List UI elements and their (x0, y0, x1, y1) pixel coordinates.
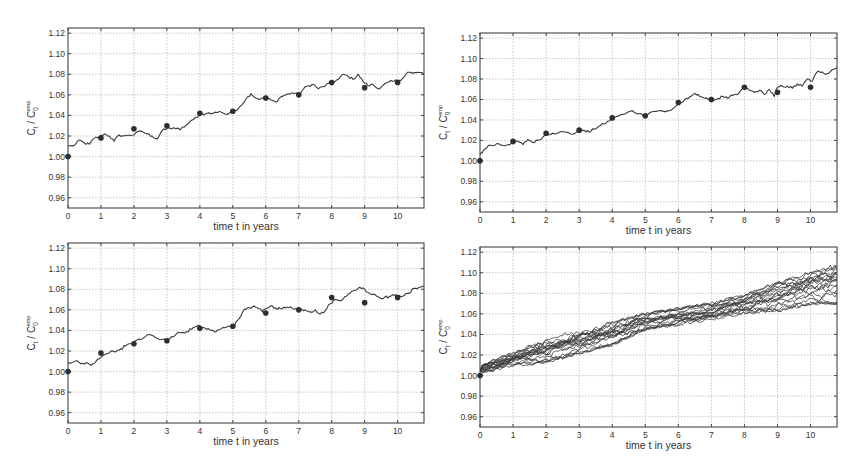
y-tick-label: 1.00 (460, 371, 477, 381)
x-tick-label: 1 (99, 211, 104, 221)
x-tick-label: 2 (544, 215, 549, 225)
y-tick-label: 1.12 (460, 247, 477, 257)
x-tick-label: 0 (478, 430, 483, 440)
x-tick-label: 2 (132, 426, 137, 436)
chart-panel-top-right: 0.960.981.001.021.041.061.081.101.120123… (437, 33, 837, 236)
x-axis-ticks: 012345678910 (66, 28, 403, 221)
empirical-point-marker (742, 84, 748, 90)
empirical-point-marker (676, 100, 682, 106)
x-tick-label: 7 (296, 211, 301, 221)
x-axis-ticks: 012345678910 (478, 33, 816, 225)
empirical-point-marker (329, 295, 335, 301)
x-tick-label: 3 (165, 211, 170, 221)
x-tick-label: 10 (806, 215, 816, 225)
grid-lines (480, 33, 837, 212)
x-axis-ticks: 012345678910 (66, 243, 403, 436)
chart-panel-bottom-left: 0.960.981.001.021.041.061.081.101.120123… (25, 243, 424, 447)
chart-panel-top-left: 0.960.981.001.021.041.061.081.101.120123… (25, 28, 424, 232)
y-tick-label: 1.08 (48, 69, 65, 79)
y-tick-label: 1.06 (48, 90, 65, 100)
empirical-point-marker (576, 127, 582, 133)
empirical-point-marker (98, 135, 104, 141)
y-axis-label: Ct / C0emp (25, 101, 39, 136)
x-tick-label: 3 (577, 430, 582, 440)
y-tick-label: 1.12 (460, 33, 477, 43)
empirical-point-marker (98, 350, 104, 356)
empirical-point-marker (510, 139, 516, 145)
y-tick-label: 1.02 (460, 350, 477, 360)
y-tick-label: 0.96 (460, 412, 477, 422)
empirical-point-marker (296, 92, 302, 98)
simulated-path-line (480, 272, 837, 371)
x-tick-label: 9 (362, 426, 367, 436)
y-tick-label: 0.98 (460, 391, 477, 401)
plot-frame (68, 28, 424, 208)
simulated-path-line (480, 289, 837, 372)
empirical-point-marker (131, 341, 137, 347)
y-tick-label: 1.06 (48, 305, 65, 315)
x-tick-label: 4 (197, 211, 202, 221)
simulated-path-line (68, 286, 424, 365)
x-tick-label: 2 (544, 430, 549, 440)
x-tick-label: 7 (296, 426, 301, 436)
y-tick-label: 0.98 (460, 176, 477, 186)
y-tick-label: 1.04 (460, 329, 477, 339)
empirical-point-marker (197, 111, 203, 117)
plot-frame (480, 247, 837, 427)
x-tick-label: 2 (132, 211, 137, 221)
empirical-point-marker (263, 310, 269, 316)
y-tick-label: 1.04 (48, 325, 65, 335)
grid-lines (68, 243, 424, 423)
y-tick-label: 1.00 (48, 367, 65, 377)
empirical-point-marker (296, 307, 302, 313)
x-tick-label: 10 (806, 430, 816, 440)
y-tick-label: 0.98 (48, 387, 65, 397)
x-axis-label: time t in years (626, 224, 691, 236)
y-axis-label: Ct / C0emp (437, 105, 451, 140)
x-tick-label: 7 (709, 215, 714, 225)
y-tick-label: 1.08 (460, 74, 477, 84)
x-tick-label: 4 (610, 215, 615, 225)
empirical-point-marker (395, 80, 401, 86)
x-tick-label: 8 (742, 215, 747, 225)
empirical-point-marker (477, 373, 483, 379)
empirical-point-marker (709, 97, 715, 103)
y-tick-label: 1.10 (460, 54, 477, 64)
y-tick-label: 1.06 (460, 309, 477, 319)
y-tick-label: 1.10 (460, 268, 477, 278)
y-tick-label: 1.02 (460, 135, 477, 145)
x-tick-label: 3 (577, 215, 582, 225)
empirical-point-marker (164, 338, 170, 344)
x-tick-label: 10 (393, 211, 403, 221)
y-tick-label: 1.10 (48, 264, 65, 274)
y-tick-label: 1.12 (48, 243, 65, 253)
y-tick-label: 0.98 (48, 172, 65, 182)
y-tick-label: 1.04 (48, 110, 65, 120)
x-tick-label: 1 (99, 426, 104, 436)
y-tick-label: 0.96 (48, 408, 65, 418)
simulated-path-line (480, 283, 837, 370)
empirical-point-marker (775, 90, 781, 96)
empirical-point-marker (642, 113, 648, 119)
empirical-point-marker (609, 115, 615, 121)
x-tick-label: 0 (478, 215, 483, 225)
x-tick-label: 8 (329, 426, 334, 436)
empirical-point-marker (65, 369, 71, 375)
x-tick-label: 0 (66, 211, 71, 221)
empirical-point-marker (131, 126, 137, 132)
simulated-path-line (68, 72, 424, 146)
y-tick-label: 0.96 (48, 193, 65, 203)
empirical-point-marker (808, 84, 814, 90)
y-tick-label: 1.00 (48, 152, 65, 162)
y-axis-label: Ct / C0emp (25, 316, 39, 351)
empirical-point-marker (362, 85, 368, 91)
y-tick-label: 1.10 (48, 49, 65, 59)
x-axis-ticks: 012345678910 (478, 247, 816, 440)
x-axis-label: time t in years (213, 220, 278, 232)
empirical-point-marker (329, 80, 335, 86)
y-tick-label: 1.08 (460, 288, 477, 298)
x-tick-label: 4 (610, 430, 615, 440)
svg-text:Ct / C0emp: Ct / C0emp (25, 101, 39, 136)
empirical-point-marker (362, 300, 368, 306)
plot-frame (480, 33, 837, 212)
